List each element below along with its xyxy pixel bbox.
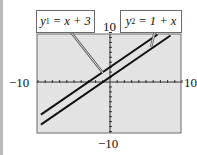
plot-area xyxy=(37,34,181,133)
y-max-label: 10 xyxy=(103,20,116,33)
y2-rest: = 1 + x xyxy=(135,14,176,29)
x-max-label: 10 xyxy=(184,76,197,89)
label-y2: y2 = 1 + x xyxy=(120,10,182,33)
label-y1: y1 = x + 3 xyxy=(36,10,95,33)
y1-rest: = x + 3 xyxy=(50,14,91,29)
y-min-label: −10 xyxy=(98,137,118,150)
x-min-label: −10 xyxy=(9,76,29,89)
